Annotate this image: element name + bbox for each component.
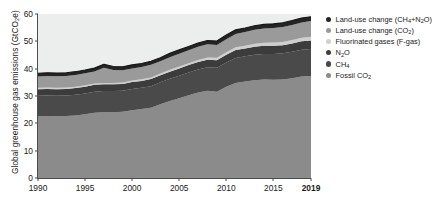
y-tick-label: 40	[9, 64, 33, 74]
x-tick-label: 2010	[217, 183, 236, 193]
x-tick-label: 2019	[302, 183, 321, 193]
y-tick-label: 0	[9, 173, 33, 183]
x-axis-line	[37, 178, 311, 179]
legend-item-fossil_co2[interactable]: Fossil CO2	[326, 70, 446, 81]
y-tick-label: 20	[9, 118, 33, 128]
x-tick-label: 2005	[170, 183, 189, 193]
x-tick-label: 1990	[29, 183, 48, 193]
x-tick-mark	[85, 178, 86, 181]
legend-item-label: Land-use change (CO2)	[336, 26, 414, 35]
legend-swatch-icon	[326, 73, 331, 78]
legend-item-label: Fluorinated gases (F-gas)	[336, 37, 421, 46]
chart-legend: Land-use change (CH4+N2O)Land-use change…	[326, 14, 446, 81]
y-tick-label: 50	[9, 36, 33, 46]
y-tick-label: 60	[9, 9, 33, 19]
plot-area: 0102030405060 19901995200020052010201520…	[38, 14, 311, 178]
y-tick-mark	[35, 150, 38, 151]
legend-swatch-icon	[326, 17, 331, 22]
y-tick-mark	[35, 123, 38, 124]
y-tick-mark	[35, 41, 38, 42]
legend-item-label: Land-use change (CH4+N2O)	[336, 15, 432, 24]
x-tick-mark	[38, 178, 39, 181]
stacked-area-plot	[38, 14, 311, 178]
y-tick-label: 30	[9, 91, 33, 101]
y-tick-label: 10	[9, 146, 33, 156]
legend-item-label: N2O	[336, 48, 350, 57]
legend-item-label: Fossil CO2	[336, 71, 372, 80]
legend-item-landuse_ch4_n2o[interactable]: Land-use change (CH4+N2O)	[326, 14, 446, 25]
area-series-svg	[38, 14, 311, 178]
x-tick-mark	[179, 178, 180, 181]
legend-swatch-icon	[326, 39, 331, 44]
legend-swatch-icon	[326, 61, 331, 66]
legend-swatch-icon	[326, 28, 331, 33]
legend-item-n2o[interactable]: N2O	[326, 48, 446, 59]
x-tick-mark	[132, 178, 133, 181]
y-tick-mark	[35, 14, 38, 15]
legend-item-label: CH4	[336, 60, 350, 69]
y-tick-mark	[35, 96, 38, 97]
legend-item-ch4[interactable]: CH4	[326, 59, 446, 70]
x-tick-mark	[273, 178, 274, 181]
chart-figure: Global greenhouse gas emissions (GtCO₂e)…	[0, 0, 446, 207]
x-tick-mark	[311, 178, 312, 181]
x-tick-label: 1995	[76, 183, 95, 193]
x-tick-label: 2000	[123, 183, 142, 193]
legend-swatch-icon	[326, 50, 331, 55]
legend-item-fgas[interactable]: Fluorinated gases (F-gas)	[326, 36, 446, 47]
x-tick-label: 2015	[264, 183, 283, 193]
legend-item-landuse_co2[interactable]: Land-use change (CO2)	[326, 25, 446, 36]
y-tick-mark	[35, 68, 38, 69]
x-tick-mark	[226, 178, 227, 181]
